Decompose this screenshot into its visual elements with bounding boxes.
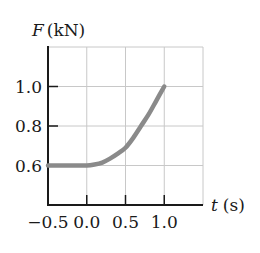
x-tick-label: 1.0 [151,212,178,232]
x-tick-label: 0.5 [112,212,139,232]
ticks [48,87,164,206]
x-tick-label: 0.0 [73,212,100,232]
y-tick-labels: 0.60.81.0 [15,77,42,176]
x-axis-label: t(s) [211,195,245,215]
y-tick-label: 0.8 [15,116,42,136]
force-time-chart: 0.60.81.0 −0.50.00.51.0 F(kN) t(s) [0,0,260,253]
grid [48,47,203,205]
y-axis-label: F(kN) [31,20,85,40]
y-tick-label: 1.0 [15,77,42,97]
x-tick-label: −0.5 [27,212,68,232]
y-tick-label: 0.6 [15,156,42,176]
x-tick-labels: −0.50.00.51.0 [27,212,177,232]
